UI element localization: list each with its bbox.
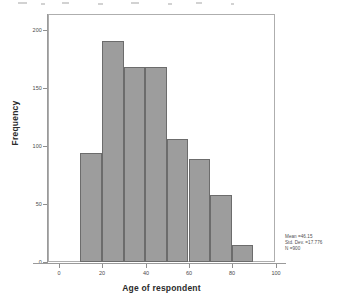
x-axis-tick (189, 264, 190, 268)
x-axis-tick-label: 80 (229, 270, 235, 277)
y-axis-tick-label: 50 (36, 201, 42, 207)
y-axis-tick-label: 0 (39, 259, 42, 265)
y-axis-tick-labels: 0 50 100 150 200 (0, 0, 42, 306)
histogram-bar (189, 159, 211, 262)
histogram-bar (232, 245, 254, 262)
histogram-bar (80, 153, 102, 263)
y-axis-tick-label: 150 (33, 85, 42, 91)
histogram-bar (102, 41, 124, 262)
x-axis-tick (59, 264, 60, 268)
x-axis-tick-label: 40 (143, 270, 149, 277)
x-axis-tick (276, 264, 277, 268)
y-axis-tick (43, 146, 47, 147)
x-axis-tick-label: 20 (99, 270, 105, 277)
y-axis-tick-label: 200 (33, 27, 42, 33)
y-axis-title: Frequency (10, 77, 20, 169)
statistics-annotation: Mean =46.15 Std. Dev. =17.776 N =900 (285, 234, 345, 252)
y-axis-tick-label: 100 (33, 143, 42, 149)
histogram-bar (145, 67, 167, 262)
histogram-figure: 0 50 100 150 200 Frequency 0 20 40 60 80… (0, 0, 347, 306)
x-axis-line (33, 263, 286, 264)
stat-n: N =900 (285, 246, 345, 252)
y-axis-tick (43, 204, 47, 205)
x-axis-tick (232, 264, 233, 268)
x-axis-tick-label: 0 (57, 270, 60, 277)
y-axis-tick (43, 88, 47, 89)
y-axis-line (47, 14, 48, 263)
x-axis-tick-label: 60 (186, 270, 192, 277)
plot-area (48, 14, 275, 262)
histogram-bar (210, 195, 232, 262)
x-axis-tick-label: 100 (271, 270, 280, 277)
x-axis-tick (146, 264, 147, 268)
histogram-bar (124, 67, 146, 262)
y-axis-tick (43, 30, 47, 31)
histogram-bar (167, 139, 189, 262)
x-axis-tick (102, 264, 103, 268)
x-axis-title: Age of respondent (48, 283, 275, 293)
